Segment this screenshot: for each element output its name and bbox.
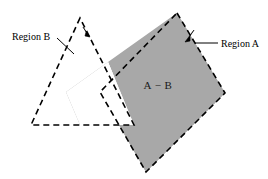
figure-container: Region B Region A A − B (0, 0, 268, 179)
region-b-leader-line (57, 38, 74, 54)
difference-label: A − B (144, 79, 173, 91)
region-a-label: Region A (221, 38, 260, 49)
region-b-label: Region B (12, 31, 50, 42)
arrow-on-region-b-edge-icon (83, 27, 90, 37)
set-difference-diagram: Region B Region A A − B (0, 0, 268, 179)
